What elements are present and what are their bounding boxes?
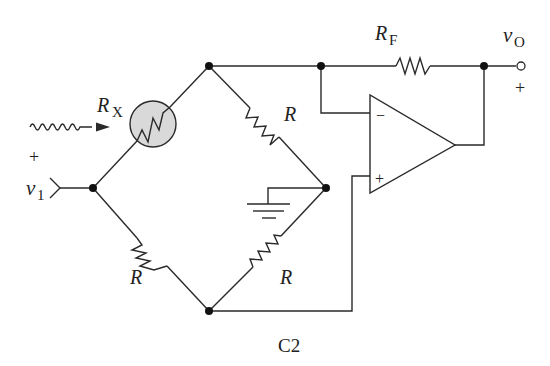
feedback-wires bbox=[209, 58, 516, 311]
vo-plus-label: + bbox=[515, 78, 525, 98]
v1-label: v bbox=[26, 176, 36, 200]
vo-label: v bbox=[503, 23, 513, 47]
vo-label-subscript: O bbox=[514, 34, 525, 50]
circuit-svg: − + R X R F R R R v O + + v 1 C2 bbox=[0, 0, 550, 366]
output-terminal bbox=[517, 62, 525, 70]
rf-label-subscript: F bbox=[389, 32, 397, 48]
resistor-rx bbox=[130, 101, 176, 147]
r-bottom-right-label: R bbox=[279, 266, 292, 288]
r-top-right-label: R bbox=[283, 103, 296, 125]
input-terminal-v1 bbox=[50, 178, 93, 198]
radiation-arrow-icon bbox=[30, 123, 110, 132]
r-bottom-left-label: R bbox=[129, 266, 142, 288]
v1-label-subscript: 1 bbox=[37, 187, 45, 203]
rx-label: R bbox=[96, 94, 109, 116]
circuit-diagram: − + R X R F R R R v O + + v 1 C2 bbox=[0, 0, 550, 366]
opamp-plus-label: + bbox=[375, 170, 384, 187]
figure-caption: C2 bbox=[278, 335, 300, 356]
opamp-minus-label: − bbox=[376, 107, 385, 124]
rf-label: R bbox=[374, 22, 387, 44]
resistor-r1 bbox=[246, 108, 279, 145]
op-amp: − + bbox=[370, 95, 455, 193]
resistor-r3 bbox=[250, 235, 281, 267]
rx-label-subscript: X bbox=[112, 104, 123, 120]
ground-icon bbox=[247, 188, 326, 218]
v1-plus-label: + bbox=[29, 147, 39, 167]
